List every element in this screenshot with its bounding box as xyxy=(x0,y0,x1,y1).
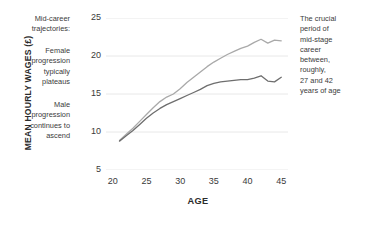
annotation-female-plateau: Female progression typically plateaus xyxy=(2,46,70,87)
y-tick-label: 10 xyxy=(79,126,101,136)
left-annotation-group: Mid-career trajectories: Female progress… xyxy=(2,0,70,41)
series-lines xyxy=(119,39,281,141)
y-tick-label: 5 xyxy=(79,164,101,174)
gridlines xyxy=(106,18,288,170)
x-tick-label: 40 xyxy=(235,176,261,186)
annotation-male-ascend: Male progression continues to ascend xyxy=(2,100,70,141)
plot-area xyxy=(106,18,288,170)
y-axis-title: MEAN HOURLY WAGES (£) xyxy=(23,18,33,168)
x-tick-label: 45 xyxy=(268,176,294,186)
chart-figure: Mid-career trajectories: Female progress… xyxy=(0,0,371,228)
series-line-female xyxy=(119,76,281,141)
plot-svg xyxy=(106,18,288,170)
y-tick-label: 25 xyxy=(79,12,101,22)
x-tick-label: 25 xyxy=(133,176,159,186)
annotation-mid-career-trajectories: Mid-career trajectories: xyxy=(2,14,70,35)
x-tick-label: 30 xyxy=(167,176,193,186)
x-tick-label: 20 xyxy=(100,176,126,186)
y-tick-label: 20 xyxy=(79,50,101,60)
y-tick-label: 15 xyxy=(79,88,101,98)
x-axis-title: AGE xyxy=(105,196,291,206)
annotation-crucial-period: The crucial period of mid-stage career b… xyxy=(300,14,370,96)
x-tick-label: 35 xyxy=(201,176,227,186)
